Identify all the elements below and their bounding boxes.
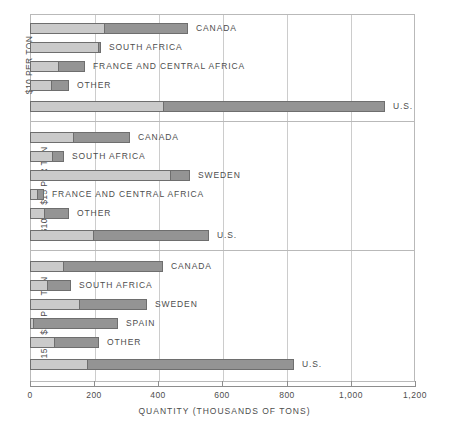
bar-row: SOUTH AFRICA xyxy=(30,280,415,291)
stacked-bar[interactable] xyxy=(30,61,85,72)
bar-segment-light xyxy=(31,209,44,218)
x-tick-label: 1,200 xyxy=(403,390,427,400)
stacked-bar[interactable] xyxy=(30,230,209,241)
bar-row: OTHER xyxy=(30,208,415,219)
bar-row: U.S. xyxy=(30,359,415,370)
bar-label: SOUTH AFRICA xyxy=(79,279,153,291)
stacked-bar[interactable] xyxy=(30,42,101,53)
stacked-bar[interactable] xyxy=(30,280,71,291)
bar-segment-dark xyxy=(44,209,68,218)
bar-row: U.S. xyxy=(30,101,415,112)
bar-segment-light xyxy=(31,300,79,309)
stacked-bar[interactable] xyxy=(30,359,294,370)
stacked-bar[interactable] xyxy=(30,261,163,272)
bar-segment-dark xyxy=(104,24,187,33)
bar-row: OTHER xyxy=(30,80,415,91)
stacked-bar[interactable] xyxy=(30,101,385,112)
bar-label: U.S. xyxy=(393,100,413,112)
group-label-1: $10 PER TON xyxy=(0,60,26,70)
bar-segment-dark xyxy=(37,190,43,199)
bar-row: FRANCE AND CENTRAL AFRICA xyxy=(30,189,415,200)
stacked-bar[interactable] xyxy=(30,80,69,91)
bar-row: SOUTH AFRICA xyxy=(30,151,415,162)
x-tick xyxy=(222,381,223,387)
stacked-bar[interactable] xyxy=(30,151,64,162)
group-divider-2 xyxy=(31,250,414,251)
bar-label: CANADA xyxy=(171,260,212,272)
bar-segment-dark xyxy=(33,319,117,328)
x-tick-label: 1,000 xyxy=(339,390,363,400)
bar-segment-light xyxy=(31,281,47,290)
group-label-3: $15 to $30 PER TON xyxy=(0,315,26,325)
bar-segment-dark xyxy=(163,102,384,111)
x-axis-title: QUANTITY (THOUSANDS OF TONS) xyxy=(0,406,449,416)
bar-row: SWEDEN xyxy=(30,170,415,181)
stacked-bar[interactable] xyxy=(30,208,69,219)
stacked-bar[interactable] xyxy=(30,23,188,34)
stacked-bar[interactable] xyxy=(30,132,130,143)
bar-segment-light xyxy=(31,152,52,161)
bar-label: FRANCE AND CENTRAL AFRICA xyxy=(93,60,245,72)
bar-segment-light xyxy=(31,43,98,52)
bar-segment-dark xyxy=(52,152,63,161)
bar-segment-light xyxy=(31,338,54,347)
bar-segment-dark xyxy=(63,262,162,271)
bar-label: U.S. xyxy=(302,358,322,370)
bar-segment-light xyxy=(31,171,170,180)
x-tick xyxy=(287,381,288,387)
bar-label: SWEDEN xyxy=(198,169,241,181)
bar-segment-dark xyxy=(87,360,293,369)
stacked-bar[interactable] xyxy=(30,170,190,181)
bar-label: CANADA xyxy=(196,22,237,34)
bar-row: FRANCE AND CENTRAL AFRICA xyxy=(30,61,415,72)
x-tick xyxy=(351,381,352,387)
bar-segment-dark xyxy=(170,171,189,180)
stacked-bar[interactable] xyxy=(30,299,147,310)
bar-segment-light xyxy=(31,62,58,71)
bar-segment-light xyxy=(31,24,104,33)
stacked-bar[interactable] xyxy=(30,189,44,200)
bar-label: U.S. xyxy=(217,229,237,241)
bar-row: OTHER xyxy=(30,337,415,348)
bar-segment-dark xyxy=(58,62,84,71)
bar-label: SPAIN xyxy=(126,317,155,329)
x-tick-label: 200 xyxy=(86,390,102,400)
x-tick xyxy=(94,381,95,387)
bar-segment-light xyxy=(31,360,87,369)
bar-segment-light xyxy=(31,231,93,240)
x-tick-label: 0 xyxy=(27,390,32,400)
bar-segment-light xyxy=(31,133,73,142)
bar-label: SWEDEN xyxy=(155,298,198,310)
group-divider-1 xyxy=(31,121,414,122)
bar-label: FRANCE AND CENTRAL AFRICA xyxy=(52,188,204,200)
bar-row: CANADA xyxy=(30,132,415,143)
bar-label: SOUTH AFRICA xyxy=(72,150,146,162)
bar-segment-dark xyxy=(47,281,70,290)
bar-label: SOUTH AFRICA xyxy=(109,41,183,53)
bar-row: SPAIN xyxy=(30,318,415,329)
stacked-bar[interactable] xyxy=(30,337,99,348)
bar-segment-dark xyxy=(79,300,146,309)
bar-segment-light xyxy=(31,81,51,90)
bar-segment-light xyxy=(31,262,63,271)
bar-row: CANADA xyxy=(30,261,415,272)
bar-segment-dark xyxy=(51,81,68,90)
x-tick xyxy=(158,381,159,387)
x-tick-label: 600 xyxy=(214,390,230,400)
bar-chart: $10 PER TON CANADA SOUTH AFRICA FRANCE A… xyxy=(0,0,449,428)
stacked-bar[interactable] xyxy=(30,318,118,329)
bar-row: U.S. xyxy=(30,230,415,241)
bar-label: OTHER xyxy=(107,336,141,348)
bar-segment-dark xyxy=(93,231,208,240)
bar-label: OTHER xyxy=(77,79,111,91)
x-tick xyxy=(415,381,416,387)
bar-segment-light xyxy=(31,102,163,111)
bar-row: CANADA xyxy=(30,23,415,34)
bar-segment-dark xyxy=(54,338,98,347)
bar-label: CANADA xyxy=(138,131,179,143)
bar-segment-dark xyxy=(73,133,129,142)
bar-label: OTHER xyxy=(77,207,111,219)
group-label-2: $10 to $15 PER TON xyxy=(0,185,26,195)
bar-row: SWEDEN xyxy=(30,299,415,310)
x-tick xyxy=(30,381,31,387)
